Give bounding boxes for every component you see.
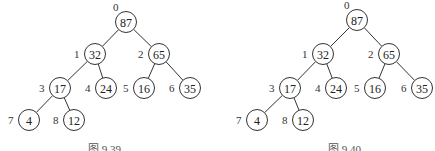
tree-edge (148, 64, 155, 79)
node-value: 65 (383, 48, 395, 62)
tree-node: 65 (379, 44, 400, 65)
tree-node: 17 (280, 78, 301, 99)
node-value: 32 (89, 48, 101, 62)
node-value: 17 (54, 82, 66, 96)
heap-tree-right: 87032165217324416535647128 (236, 0, 433, 131)
node-value: 35 (184, 82, 196, 96)
tree-edge (64, 98, 70, 111)
node-value: 17 (284, 82, 296, 96)
tree-edge (297, 62, 315, 81)
tree-edge (265, 95, 283, 112)
node-value: 32 (317, 48, 329, 62)
node-index-label: 0 (113, 1, 119, 13)
tree-edge (36, 96, 52, 113)
tree-node: 65 (149, 44, 170, 65)
node-value: 16 (138, 82, 150, 96)
node-value: 35 (416, 82, 428, 96)
tree-edge (166, 62, 183, 80)
node-index-label: 6 (169, 82, 175, 94)
tree-node: 4 (19, 110, 40, 131)
tree-node: 32 (85, 44, 106, 65)
node-index-label: 0 (344, 0, 350, 11)
tree-node: 35 (412, 78, 433, 99)
node-index-label: 1 (74, 48, 80, 60)
tree-edge (68, 61, 88, 80)
node-index-label: 7 (236, 114, 242, 126)
tree-node: 35 (180, 78, 201, 99)
tree-node: 12 (293, 110, 314, 131)
heap-tree-left: 87032165217324416535647128 (8, 1, 201, 131)
node-value: 12 (68, 114, 80, 128)
tree-edge (327, 64, 333, 78)
tree-node: 32 (313, 44, 334, 65)
node-value: 4 (254, 114, 260, 128)
tree-node: 24 (326, 78, 347, 99)
node-value: 12 (297, 114, 309, 128)
tree-edge (294, 98, 299, 111)
node-index-label: 2 (368, 48, 374, 60)
tree-edge (102, 30, 118, 47)
node-index-label: 6 (401, 82, 407, 94)
tree-edge (396, 62, 414, 81)
node-index-label: 1 (302, 48, 308, 60)
node-index-label: 2 (138, 48, 144, 60)
tree-node: 87 (116, 12, 137, 33)
node-index-label: 5 (123, 82, 129, 94)
tree-node: 12 (64, 110, 85, 131)
node-index-label: 7 (8, 114, 14, 126)
node-value: 87 (351, 14, 363, 28)
tree-node: 16 (365, 78, 386, 99)
tree-edge (134, 29, 152, 46)
tree-node: 87 (347, 10, 368, 31)
node-value: 65 (153, 48, 165, 62)
node-index-label: 8 (53, 114, 59, 126)
node-index-label: 8 (282, 114, 288, 126)
node-value: 16 (369, 82, 381, 96)
tree-node: 16 (134, 78, 155, 99)
node-index-label: 4 (315, 82, 321, 94)
heap-diagrams: 8703216521732441653564712887032165217324… (0, 0, 435, 151)
tree-node: 4 (247, 110, 268, 131)
node-value: 24 (330, 82, 342, 96)
figure-caption-right: 图 9.40 (328, 140, 361, 151)
node-value: 24 (100, 82, 112, 96)
node-index-label: 3 (269, 82, 275, 94)
node-index-label: 4 (85, 82, 91, 94)
node-index-label: 5 (354, 82, 360, 94)
tree-edge (364, 28, 382, 47)
node-value: 87 (120, 16, 132, 30)
tree-edge (379, 64, 385, 79)
node-value: 4 (26, 114, 32, 128)
tree-edge (98, 64, 103, 78)
tree-node: 17 (50, 78, 71, 99)
node-index-label: 3 (39, 82, 45, 94)
figure-caption-left: 图 9.39 (88, 140, 121, 151)
tree-node: 24 (96, 78, 117, 99)
tree-edge (330, 27, 349, 46)
